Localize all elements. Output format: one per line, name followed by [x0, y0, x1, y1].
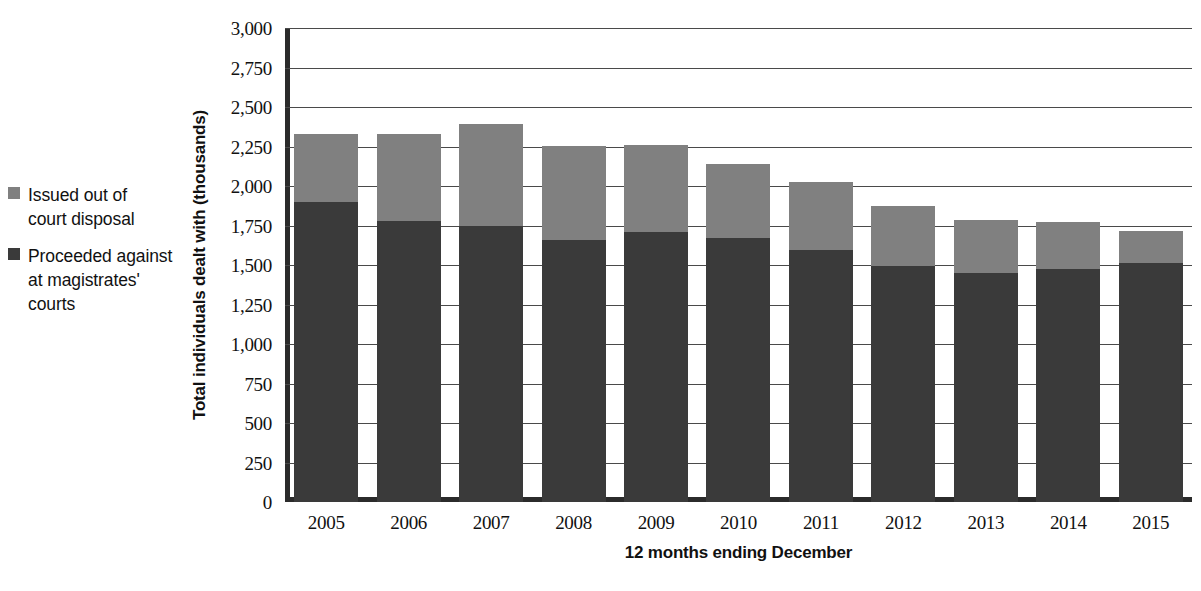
bar-segment-proceeded-against-at-magistrates-courts[interactable] — [1036, 269, 1100, 502]
bar-segment-proceeded-against-at-magistrates-courts[interactable] — [459, 226, 523, 503]
y-axis-tick-label: 1,750 — [231, 216, 272, 235]
bar-segment-issued-out-of-court-disposal[interactable] — [1036, 222, 1100, 269]
bar-group-2005[interactable] — [285, 28, 367, 502]
bar-segment-proceeded-against-at-magistrates-courts[interactable] — [542, 240, 606, 502]
y-axis-tick-label: 1,500 — [231, 256, 272, 275]
bar-group-2009[interactable] — [615, 28, 697, 502]
bar-group-2011[interactable] — [780, 28, 862, 502]
x-axis-tick-label: 2009 — [615, 512, 697, 534]
stacked-bar[interactable] — [871, 206, 935, 502]
bar-segment-issued-out-of-court-disposal[interactable] — [294, 134, 358, 202]
stacked-bar[interactable] — [1036, 222, 1100, 502]
stacked-bar[interactable] — [542, 146, 606, 502]
bar-segment-issued-out-of-court-disposal[interactable] — [624, 145, 688, 232]
bar-segment-issued-out-of-court-disposal[interactable] — [1119, 231, 1183, 263]
chart-legend: Issued out of court disposal Proceeded a… — [8, 183, 208, 329]
stacked-bar[interactable] — [624, 145, 688, 502]
bar-segment-proceeded-against-at-magistrates-courts[interactable] — [871, 266, 935, 502]
x-axis-tick-label: 2010 — [697, 512, 779, 534]
bar-segment-issued-out-of-court-disposal[interactable] — [459, 124, 523, 225]
bar-group-2006[interactable] — [367, 28, 449, 502]
bar-segment-issued-out-of-court-disposal[interactable] — [871, 206, 935, 266]
bar-segment-issued-out-of-court-disposal[interactable] — [377, 134, 441, 221]
bar-group-2008[interactable] — [532, 28, 614, 502]
y-axis-tick-label: 2,000 — [231, 177, 272, 196]
y-axis-tick-label: 0 — [263, 493, 272, 512]
bar-segment-issued-out-of-court-disposal[interactable] — [542, 146, 606, 240]
stacked-bar[interactable] — [377, 134, 441, 502]
bar-series-container — [285, 28, 1192, 502]
y-axis-tick-label: 750 — [244, 374, 272, 393]
bar-group-2013[interactable] — [945, 28, 1027, 502]
y-axis-tick-label: 2,250 — [231, 137, 272, 156]
x-axis-tick-label: 2015 — [1110, 512, 1192, 534]
y-axis-tick-label: 2,500 — [231, 98, 272, 117]
stacked-bar[interactable] — [459, 124, 523, 502]
legend-item-issued-out-of-court-disposal: Issued out of court disposal — [8, 183, 208, 231]
legend-swatch-icon — [8, 248, 20, 260]
y-axis-tick-label: 1,000 — [231, 335, 272, 354]
x-axis-tick-label: 2012 — [862, 512, 944, 534]
stacked-bar[interactable] — [706, 164, 770, 502]
y-axis-tick-label: 3,000 — [231, 19, 272, 38]
legend-item-label: Issued out of court disposal — [28, 183, 135, 231]
bar-segment-issued-out-of-court-disposal[interactable] — [954, 220, 1018, 273]
bar-group-2014[interactable] — [1027, 28, 1109, 502]
y-axis-tick-label: 250 — [244, 453, 272, 472]
legend-item-proceeded-against-at-magistrates-courts: Proceeded against at magistrates' courts — [8, 244, 208, 316]
y-axis-tick-label: 500 — [244, 414, 272, 433]
stacked-bar[interactable] — [954, 220, 1018, 502]
legend-swatch-icon — [8, 187, 20, 199]
x-axis-tick-label: 2006 — [367, 512, 449, 534]
bar-segment-proceeded-against-at-magistrates-courts[interactable] — [377, 221, 441, 502]
bar-segment-proceeded-against-at-magistrates-courts[interactable] — [294, 202, 358, 502]
bar-group-2007[interactable] — [450, 28, 532, 502]
y-axis-tick-label: 1,250 — [231, 295, 272, 314]
bar-segment-proceeded-against-at-magistrates-courts[interactable] — [624, 232, 688, 502]
y-axis-tick-labels: 3,0002,7502,5002,2502,0001,7501,5001,250… — [212, 0, 280, 591]
bar-group-2012[interactable] — [862, 28, 944, 502]
bar-group-2010[interactable] — [697, 28, 779, 502]
bar-segment-proceeded-against-at-magistrates-courts[interactable] — [789, 250, 853, 502]
x-axis-tick-label: 2005 — [285, 512, 367, 534]
bar-segment-issued-out-of-court-disposal[interactable] — [706, 164, 770, 238]
x-axis-tick-label: 2014 — [1027, 512, 1109, 534]
x-axis-tick-labels: 2005200620072008200920102011201220132014… — [285, 512, 1192, 534]
bar-group-2015[interactable] — [1110, 28, 1192, 502]
bar-segment-issued-out-of-court-disposal[interactable] — [789, 182, 853, 250]
x-axis-title: 12 months ending December — [285, 543, 1192, 563]
plot-area — [285, 28, 1192, 502]
x-axis-tick-label: 2007 — [450, 512, 532, 534]
bar-segment-proceeded-against-at-magistrates-courts[interactable] — [954, 273, 1018, 502]
y-axis-tick-label: 2,750 — [231, 58, 272, 77]
y-axis-title: Total individuals dealt with (thousands) — [188, 0, 212, 530]
x-axis-tick-label: 2013 — [945, 512, 1027, 534]
y-axis-title-text: Total individuals dealt with (thousands) — [190, 110, 210, 420]
x-axis-tick-label: 2011 — [780, 512, 862, 534]
legend-item-label: Proceeded against at magistrates' courts — [28, 244, 172, 316]
stacked-bar[interactable] — [294, 134, 358, 502]
bar-segment-proceeded-against-at-magistrates-courts[interactable] — [706, 238, 770, 502]
x-axis-tick-label: 2008 — [532, 512, 614, 534]
bar-segment-proceeded-against-at-magistrates-courts[interactable] — [1119, 263, 1183, 502]
stacked-bar[interactable] — [789, 182, 853, 502]
stacked-bar[interactable] — [1119, 231, 1183, 502]
